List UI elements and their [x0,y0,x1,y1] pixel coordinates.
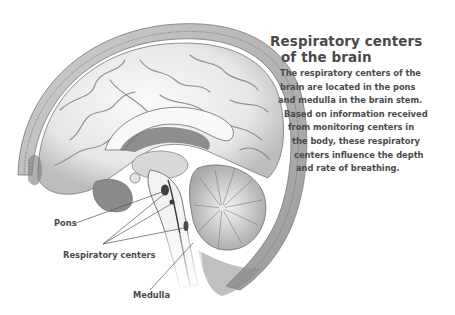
label-medulla: Medulla [133,290,170,300]
description-line: The respiratory centers of the [280,67,455,81]
respiratory-center-medulla [184,221,189,231]
diagram-title: Respiratory centers of the brain [270,33,423,65]
title-line-2: of the brain [270,49,423,65]
cerebellum [190,165,266,250]
respiratory-center-pons-2 [170,200,175,205]
title-line-1: Respiratory centers [270,33,423,49]
description-paragraph: The respiratory centers of the brain are… [280,67,455,176]
description-line: from monitoring centers in [280,121,455,135]
description-line: and rate of breathing. [280,162,455,176]
description-line: and medulla in the brain stem. [278,94,455,108]
label-respiratory-centers: Respiratory centers [63,250,156,260]
description-line: the body, these respiratory [280,135,455,149]
description-line: Based on information received [280,108,455,122]
description-line: centers influence the depth [280,149,455,163]
description-line: brain are located in the pons [280,81,455,95]
label-pons: Pons [54,218,77,228]
respiratory-center-pons [161,185,169,196]
